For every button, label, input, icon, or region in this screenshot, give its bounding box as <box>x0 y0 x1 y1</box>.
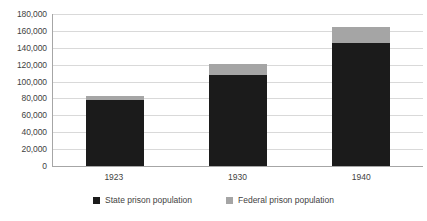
y-tick-label: 40,000 <box>22 128 47 137</box>
bar-stack[interactable] <box>332 27 390 166</box>
y-tick-label: 100,000 <box>17 77 47 86</box>
y-axis: 180,000160,000140,000120,000100,00080,00… <box>0 14 47 166</box>
chart-legend: State prison populationFederal prison po… <box>0 192 427 208</box>
legend-swatch-icon <box>93 197 100 204</box>
y-tick-label: 80,000 <box>22 94 47 103</box>
bars-layer <box>53 14 423 166</box>
bar-segment-state[interactable] <box>86 100 144 166</box>
bar-segment-federal[interactable] <box>209 64 267 75</box>
legend-item[interactable]: State prison population <box>93 196 192 205</box>
x-tick-label: 1940 <box>299 170 423 184</box>
y-tick-label: 60,000 <box>22 111 47 120</box>
bar-segment-state[interactable] <box>209 75 267 166</box>
legend-item[interactable]: Federal prison population <box>226 196 334 205</box>
bar-segment-federal[interactable] <box>332 27 390 43</box>
bar-group-1930 <box>176 14 299 166</box>
bar-group-1923 <box>53 14 176 166</box>
y-tick-label: 0 <box>42 162 47 171</box>
legend-label: Federal prison population <box>238 196 334 205</box>
legend-label: State prison population <box>105 196 192 205</box>
y-tick-label: 140,000 <box>17 44 47 53</box>
bar-stack[interactable] <box>209 64 267 166</box>
bar-segment-state[interactable] <box>332 43 390 166</box>
plot-wrapper: 180,000160,000140,000120,000100,00080,00… <box>0 0 427 188</box>
y-tick-label: 20,000 <box>22 145 47 154</box>
x-tick-label: 1923 <box>52 170 176 184</box>
x-tick-label: 1930 <box>176 170 300 184</box>
x-axis: 192319301940 <box>52 170 423 184</box>
plot-area <box>52 14 423 167</box>
y-tick-label: 160,000 <box>17 27 47 36</box>
bar-group-1940 <box>300 14 423 166</box>
y-tick-label: 180,000 <box>17 10 47 19</box>
stacked-bar-chart: 180,000160,000140,000120,000100,00080,00… <box>0 0 427 221</box>
legend-swatch-icon <box>226 197 233 204</box>
y-tick-label: 120,000 <box>17 60 47 69</box>
bar-stack[interactable] <box>86 96 144 166</box>
